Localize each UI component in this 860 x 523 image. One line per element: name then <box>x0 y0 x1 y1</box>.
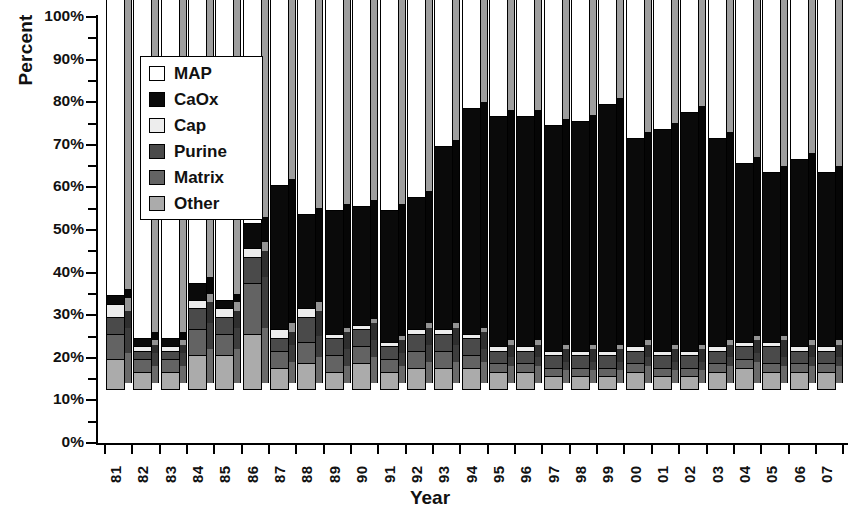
bar-side-segment-purine <box>262 251 269 277</box>
bar-segment-other <box>270 369 289 390</box>
bar-segment-caox <box>243 224 262 250</box>
bar-segment-caox <box>817 173 836 348</box>
bar-side-segment-matrix <box>125 328 132 354</box>
bar-segment-purine <box>735 347 754 360</box>
bar-side-segment-purine <box>289 332 296 345</box>
bar-segment-caox <box>188 284 207 301</box>
bar-3d-side <box>289 0 296 390</box>
bar-side-segment-cap <box>481 328 488 332</box>
bar-column <box>297 0 316 390</box>
bar-segment-other <box>790 373 809 390</box>
legend-swatch-purine <box>149 144 165 159</box>
bar-segment-matrix <box>297 343 316 364</box>
bar-segment-other <box>598 377 617 390</box>
bar-side-segment-caox <box>289 179 296 324</box>
bar-side-segment-other <box>590 370 597 383</box>
bar-side-segment-cap <box>645 340 652 344</box>
bar-column <box>790 0 809 390</box>
bar-column <box>544 0 563 390</box>
legend-label: Other <box>174 195 219 212</box>
bar-side-segment-matrix <box>371 340 378 357</box>
bar-side-segment-matrix <box>180 353 187 366</box>
legend-item: Matrix <box>149 167 254 187</box>
bar-side-segment-cap <box>316 302 323 311</box>
bar-segment-map <box>790 0 809 160</box>
bar-segment-other <box>380 373 399 390</box>
bar-3d-side <box>563 0 570 390</box>
bar-column <box>735 0 754 390</box>
bar-side-segment-map <box>781 0 788 166</box>
bar-side-segment-matrix <box>809 357 816 366</box>
bar-segment-cap <box>325 335 344 339</box>
bar-side-segment-purine <box>563 349 570 362</box>
bar-segment-caox <box>462 109 481 335</box>
bar-side-segment-cap <box>207 294 214 303</box>
bar-column <box>653 0 672 390</box>
bar-segment-other <box>735 369 754 390</box>
bar-side-segment-cap <box>344 328 351 332</box>
bar-segment-cap <box>462 335 481 339</box>
bar-side-segment-purine <box>508 345 515 358</box>
bar-side-segment-purine <box>535 345 542 358</box>
bar-side-segment-caox <box>152 332 159 341</box>
bar-side-segment-purine <box>809 345 816 358</box>
bar-segment-cap <box>653 352 672 356</box>
bar-side-segment-other <box>699 370 706 383</box>
bar-segment-caox <box>133 339 152 348</box>
bar-3d-side <box>535 0 542 390</box>
bar-segment-cap <box>161 347 180 351</box>
bar-segment-matrix <box>680 369 699 378</box>
bar-side-segment-purine <box>672 349 679 362</box>
legend-item: Cap <box>149 115 254 135</box>
bar-side-segment-cap <box>399 336 406 340</box>
bar-side-segment-caox <box>180 332 187 341</box>
bar-segment-purine <box>243 258 262 284</box>
bar-3d-side <box>590 0 597 390</box>
bar-side-segment-other <box>535 366 542 383</box>
bar-segment-matrix <box>544 369 563 378</box>
bar-segment-caox <box>106 296 125 305</box>
bar-segment-map <box>489 0 508 117</box>
bar-side-segment-matrix <box>481 349 488 362</box>
legend-item: Other <box>149 193 254 213</box>
bar-segment-other <box>215 356 234 390</box>
bar-side-segment-caox <box>754 157 761 336</box>
bar-segment-purine <box>434 335 453 352</box>
bar-segment-purine <box>598 356 617 369</box>
bar-side-segment-other <box>344 366 351 383</box>
bar-segment-purine <box>762 347 781 364</box>
bar-side-segment-matrix <box>262 277 269 328</box>
bar-3d-side <box>481 0 488 390</box>
bar-segment-map <box>325 0 344 211</box>
bar-side-segment-caox <box>699 106 706 345</box>
bar-side-segment-purine <box>316 311 323 337</box>
bar-segment-map <box>297 0 316 215</box>
bar-side-segment-other <box>809 366 816 383</box>
legend: MAPCaOxCapPurineMatrixOther <box>140 56 263 220</box>
bar-side-segment-map <box>316 0 323 208</box>
bar-side-segment-other <box>152 366 159 383</box>
bar-3d-side <box>754 0 761 390</box>
bar-3d-side <box>316 0 323 390</box>
bar-segment-map <box>653 0 672 130</box>
bar-segment-purine <box>790 352 809 365</box>
bar-side-segment-other <box>781 366 788 383</box>
bar-segment-cap <box>790 347 809 351</box>
bar-segment-matrix <box>434 352 453 369</box>
bar-side-segment-matrix <box>152 353 159 366</box>
bar-side-segment-purine <box>125 311 132 328</box>
bar-segment-matrix <box>188 330 207 356</box>
bar-side-segment-purine <box>234 311 241 328</box>
bar-side-segment-other <box>399 366 406 383</box>
bar-side-segment-caox <box>836 166 843 341</box>
bar-side-segment-caox <box>207 277 214 294</box>
bar-column <box>106 0 125 390</box>
bar-segment-other <box>516 373 535 390</box>
bar-segment-matrix <box>215 335 234 356</box>
bar-side-segment-cap <box>508 340 515 344</box>
bar-side-segment-map <box>371 0 378 200</box>
bar-side-segment-purine <box>426 328 433 345</box>
bar-segment-caox <box>653 130 672 352</box>
bar-side-segment-other <box>453 362 460 383</box>
bar-side-segment-caox <box>316 208 323 302</box>
